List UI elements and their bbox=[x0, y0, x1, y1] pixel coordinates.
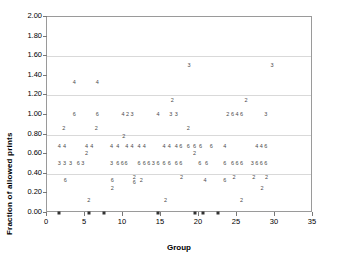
y-axis-tick-label: 1.20 bbox=[10, 89, 42, 98]
data-point-label: 6 bbox=[133, 180, 136, 186]
x-axis-tick-label: 30 bbox=[264, 217, 284, 226]
data-point-label: 3 bbox=[110, 161, 113, 167]
data-point-label: 6 bbox=[210, 145, 213, 151]
y-axis-tick-label: 0.40 bbox=[10, 168, 42, 177]
gridline bbox=[47, 135, 311, 136]
x-axis-tick-mark bbox=[160, 212, 161, 216]
y-axis-tick-mark bbox=[43, 16, 47, 17]
data-point-label: 2 bbox=[240, 198, 243, 204]
data-point-label: 6 bbox=[231, 112, 234, 118]
y-axis-tick-mark bbox=[43, 36, 47, 37]
x-axis-tick-label: 35 bbox=[302, 217, 322, 226]
data-point-label: 4 bbox=[116, 145, 119, 151]
data-point-label: 4 bbox=[96, 80, 99, 86]
data-point-label: 3 bbox=[58, 161, 61, 167]
data-point-label: 6 bbox=[199, 145, 202, 151]
y-axis-tick-mark bbox=[43, 94, 47, 95]
y-axis-tick-mark bbox=[43, 153, 47, 154]
x-axis-tick-label: 5 bbox=[74, 217, 94, 226]
data-point-label: 6 bbox=[193, 145, 196, 151]
x-axis-tick-label: 20 bbox=[188, 217, 208, 226]
data-point-label: 2 bbox=[171, 99, 174, 105]
y-axis-tick-label: 1.40 bbox=[10, 70, 42, 79]
data-point-marker bbox=[217, 212, 220, 215]
y-axis-tick-label: 2.00 bbox=[10, 11, 42, 20]
x-axis-tick-mark bbox=[46, 212, 47, 216]
x-axis-tick-label: 10 bbox=[112, 217, 132, 226]
data-point-label: 2 bbox=[226, 112, 229, 118]
data-point-label: 6 bbox=[77, 161, 80, 167]
data-point-marker bbox=[194, 212, 197, 215]
data-point-label: 6 bbox=[168, 161, 171, 167]
gridline bbox=[47, 56, 311, 57]
x-axis-tick-mark bbox=[122, 212, 123, 216]
data-point-label: 6 bbox=[198, 161, 201, 167]
data-point-label: 2 bbox=[95, 126, 98, 132]
data-point-label: 3 bbox=[63, 161, 66, 167]
y-axis-tick-label: 1.00 bbox=[10, 109, 42, 118]
data-point-marker bbox=[58, 212, 61, 215]
data-point-label: 4 bbox=[156, 112, 159, 118]
data-point-label: 3 bbox=[169, 112, 172, 118]
data-point-label: 6 bbox=[187, 145, 190, 151]
data-point-label: 4 bbox=[143, 145, 146, 151]
data-point-label: 3 bbox=[152, 161, 155, 167]
data-point-label: 6 bbox=[235, 161, 238, 167]
data-point-label: 6 bbox=[175, 161, 178, 167]
data-point-label: 3 bbox=[270, 63, 273, 69]
x-axis-tick-label: 25 bbox=[226, 217, 246, 226]
data-point-label: 6 bbox=[64, 178, 67, 184]
y-axis-tick-label: 0.80 bbox=[10, 129, 42, 138]
data-point-label: 6 bbox=[121, 161, 124, 167]
data-point-label: 2 bbox=[85, 151, 88, 157]
data-point-marker bbox=[103, 212, 106, 215]
data-point-label: 6 bbox=[137, 161, 140, 167]
data-point-label: 6 bbox=[205, 161, 208, 167]
y-axis-tick-label: 0.20 bbox=[10, 187, 42, 196]
data-point-label: 6 bbox=[179, 161, 182, 167]
data-point-label: 4 bbox=[260, 145, 263, 151]
gridline bbox=[47, 95, 311, 96]
data-point-label: 2 bbox=[111, 187, 114, 193]
data-point-label: 6 bbox=[125, 161, 128, 167]
x-axis-tick-mark bbox=[312, 212, 313, 216]
data-point-label: 4 bbox=[137, 145, 140, 151]
data-point-label: 2 bbox=[193, 151, 196, 157]
data-point-label: 6 bbox=[240, 161, 243, 167]
data-point-label: 4 bbox=[204, 178, 207, 184]
data-point-label: 2 bbox=[140, 178, 143, 184]
data-point-label: 2 bbox=[187, 126, 190, 132]
data-point-label: 3 bbox=[131, 112, 134, 118]
y-axis-tick-label: 1.60 bbox=[10, 50, 42, 59]
data-point-label: 4 bbox=[110, 145, 113, 151]
data-point-label: 4 bbox=[85, 145, 88, 151]
data-point-label: 3 bbox=[69, 161, 72, 167]
data-point-label: 2 bbox=[261, 187, 264, 193]
data-point-label: 6 bbox=[111, 178, 114, 184]
data-point-label: 4 bbox=[58, 145, 61, 151]
x-axis-title: Group bbox=[46, 243, 312, 252]
data-point-label: 4 bbox=[168, 145, 171, 151]
y-axis-tick-mark bbox=[43, 192, 47, 193]
x-axis-tick-label: 0 bbox=[36, 217, 56, 226]
data-point-label: 2 bbox=[126, 112, 129, 118]
data-point-label: 6 bbox=[223, 178, 226, 184]
data-point-label: 4 bbox=[223, 145, 226, 151]
data-point-label: 3 bbox=[175, 112, 178, 118]
data-point-marker bbox=[201, 212, 204, 215]
data-point-label: 3 bbox=[81, 161, 84, 167]
data-point-label: 4 bbox=[131, 145, 134, 151]
data-point-label: 4 bbox=[163, 145, 166, 151]
data-point-label: 6 bbox=[223, 161, 226, 167]
data-point-label: 4 bbox=[235, 112, 238, 118]
y-axis-tick-mark bbox=[43, 75, 47, 76]
data-point-label: 6 bbox=[73, 112, 76, 118]
data-point-label: 4 bbox=[175, 145, 178, 151]
data-point-label: 6 bbox=[116, 161, 119, 167]
x-axis-tick-label: 15 bbox=[150, 217, 170, 226]
x-axis-tick-mark bbox=[84, 212, 85, 216]
y-axis-tick-mark bbox=[43, 134, 47, 135]
data-point-label: 6 bbox=[260, 161, 263, 167]
data-point-label: 2 bbox=[62, 126, 65, 132]
data-point-label: 4 bbox=[255, 145, 258, 151]
